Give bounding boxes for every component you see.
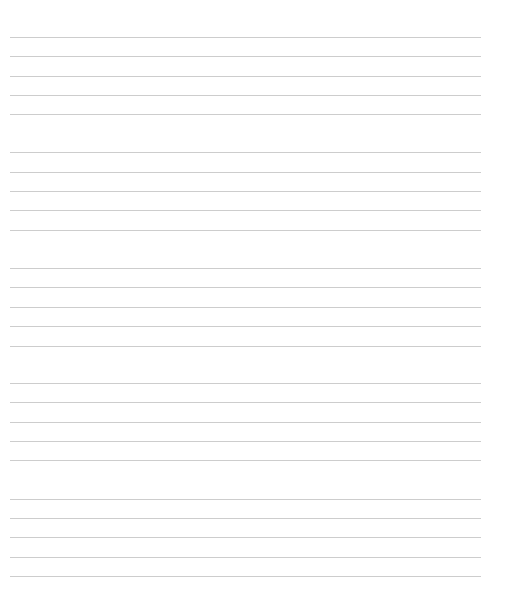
ruled-line [10,56,481,57]
ruled-line [10,76,481,77]
ruled-line [10,383,481,384]
ruled-line [10,402,481,403]
ruled-line [10,230,481,231]
ruled-line [10,287,481,288]
ruled-line [10,441,481,442]
ruled-line [10,210,481,211]
ruled-line [10,326,481,327]
ruled-line [10,152,481,153]
ruled-line [10,576,481,577]
ruled-line [10,172,481,173]
ruled-line [10,114,481,115]
ruled-line [10,191,481,192]
ruled-line [10,422,481,423]
ruled-line [10,557,481,558]
ruled-line [10,346,481,347]
ruled-line [10,499,481,500]
ruled-line [10,268,481,269]
ruled-line [10,537,481,538]
ruled-line [10,37,481,38]
ruled-line [10,95,481,96]
ruled-line [10,518,481,519]
ruled-line [10,307,481,308]
ruled-line [10,460,481,461]
